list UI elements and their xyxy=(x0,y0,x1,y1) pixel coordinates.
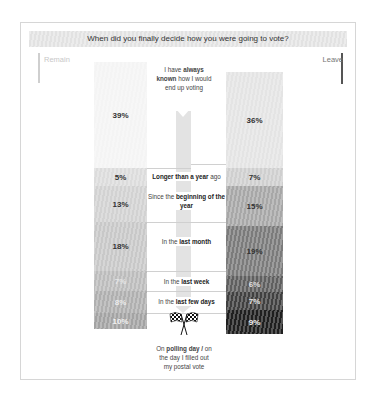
remain-marker xyxy=(38,53,40,83)
remain-seg-polling: 10% xyxy=(94,313,147,329)
divider-line xyxy=(191,164,226,165)
chart-title: When did you finally decide how you were… xyxy=(29,31,347,47)
leave-seg-beginning: 15% xyxy=(226,186,283,226)
checkered-flag-icon xyxy=(168,310,200,336)
leave-seg-month: 19% xyxy=(226,226,283,276)
leave-seg-always: 36% xyxy=(226,72,283,168)
remain-seg-month: 18% xyxy=(94,222,147,271)
category-week: In the last week xyxy=(147,277,226,286)
remain-label: Remain xyxy=(44,55,70,64)
category-beginning: Since the beginning of the year xyxy=(147,192,226,210)
category-month: In the last month xyxy=(147,237,226,246)
remain-seg-days: 8% xyxy=(94,291,147,313)
leave-seg-polling: 9% xyxy=(226,310,283,334)
remain-seg-beginning: 13% xyxy=(94,186,147,222)
note-polling-day: On polling day / on the day I filled out… xyxy=(155,344,213,371)
category-year: Longer than a year ago xyxy=(147,172,226,181)
leave-seg-year: 7% xyxy=(226,168,283,186)
timeline-notch xyxy=(176,109,190,117)
divider-line xyxy=(147,168,191,169)
note-always-known: I have always known how I would end up v… xyxy=(156,65,212,92)
remain-seg-year: 5% xyxy=(94,168,147,186)
leave-label: Leave xyxy=(323,55,343,64)
divider-line xyxy=(147,222,226,223)
divider-line xyxy=(147,291,226,292)
divider-line xyxy=(147,271,226,272)
leave-seg-days: 7% xyxy=(226,292,283,310)
leave-seg-week: 6% xyxy=(226,276,283,292)
category-days: In the last few days xyxy=(147,297,226,306)
remain-seg-week: 7% xyxy=(94,271,147,291)
remain-seg-always: 39% xyxy=(94,62,147,168)
